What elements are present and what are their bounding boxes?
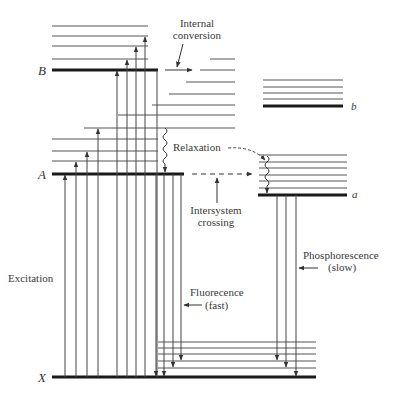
internal-conversion-label-1: Internal (180, 17, 214, 29)
state-b-label: b (351, 100, 357, 112)
phosphorescence-label-1: Phosphorescence (303, 249, 379, 261)
phosphorescence-arrows (277, 195, 296, 376)
internal-conversion-pointer (177, 44, 183, 67)
state-B-levels (52, 26, 158, 70)
fluorescence-label-1: Fluorecence (190, 286, 244, 298)
phosphorescence-label-2: (slow) (328, 261, 356, 274)
fluorescence-arrows (156, 174, 181, 376)
fluorescence-label-2: (fast) (205, 299, 229, 312)
state-a-levels (258, 155, 347, 195)
relaxation-pointer (228, 148, 265, 160)
state-X-levels (52, 342, 316, 377)
state-b-levels (263, 80, 343, 106)
state-X-label: X (37, 370, 47, 385)
state-a-label: a (352, 188, 358, 200)
state-A-label: A (37, 167, 46, 182)
state-A-levels (52, 139, 184, 174)
excitation-arrows-A (65, 129, 98, 377)
relaxation-label: Relaxation (173, 141, 221, 153)
intersystem-crossing-label-1: Intersystem (190, 204, 242, 216)
state-B-label: B (38, 63, 46, 78)
excitation-arrows-B (117, 37, 157, 377)
internal-conversion-label-2: conversion (173, 29, 222, 41)
excitation-label: Excitation (8, 272, 54, 284)
relaxation-wavy-arrow-A (163, 128, 167, 172)
jablonski-diagram: B Internal conversion A Relaxation b (0, 0, 402, 394)
intersystem-crossing-label-2: crossing (198, 216, 235, 228)
